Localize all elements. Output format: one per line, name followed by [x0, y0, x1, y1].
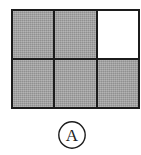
figure-label: A — [0, 118, 141, 155]
grid-cell-r1c2 — [96, 58, 140, 109]
grid-cell-r0c1 — [53, 9, 97, 60]
polyomino-figure: A — [0, 0, 141, 155]
grid-cell-r0c0 — [11, 9, 55, 60]
grid-cell-r1c0 — [11, 58, 55, 109]
figure-label-text: A — [66, 126, 79, 145]
grid-cell-r1c1 — [53, 58, 97, 109]
grid-cell-r0c2 — [96, 9, 140, 60]
circled-letter-icon: A — [57, 120, 87, 150]
polyomino-grid — [12, 10, 139, 108]
